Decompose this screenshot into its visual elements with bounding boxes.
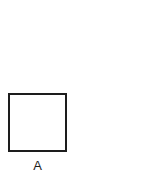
square-shape xyxy=(8,93,67,152)
figure-panel: A xyxy=(0,0,148,188)
blank-canvas-area xyxy=(0,0,148,93)
figure-caption-label: A xyxy=(8,158,67,174)
